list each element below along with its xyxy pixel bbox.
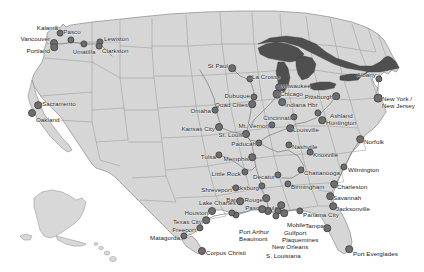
port-marker-jacksonville[interactable] [329, 202, 337, 210]
port-label-st-louis: St. Louis [218, 131, 243, 138]
port-label-knoxville: Knoxville [313, 151, 338, 158]
port-label-corpus-christi: Corpus Christi [206, 249, 246, 256]
marker-overlay: KalamaVancouverPortlandUmatillaPascoLewi… [0, 0, 424, 272]
port-label-wilmington: Wilmington [348, 166, 379, 173]
port-marker-baton-rouge[interactable] [262, 194, 270, 202]
port-marker-kansas-city[interactable] [215, 123, 223, 131]
port-marker-indiana-hbr[interactable] [278, 98, 286, 106]
port-marker-tulsa[interactable] [215, 151, 222, 158]
port-label-port-everglades: Port Everglades [353, 250, 398, 257]
port-marker-little-rock[interactable] [241, 168, 248, 175]
port-marker-freeport[interactable] [196, 224, 203, 231]
port-label-tampa: Tampa [305, 222, 324, 229]
port-marker-texas-city[interactable] [202, 216, 210, 224]
port-marker-quad-cities[interactable] [248, 100, 256, 108]
port-marker-oakland[interactable] [28, 109, 36, 117]
port-marker-albany[interactable] [375, 75, 382, 82]
port-label-memphis: Memphis [224, 155, 249, 162]
port-marker-plaquemines[interactable] [272, 212, 279, 219]
port-marker-lake-charles[interactable] [236, 197, 244, 205]
port-label-new-orleans: New Orleans [272, 243, 308, 250]
port-label-baton-rouge: Baton Rouge [226, 196, 263, 203]
port-label-panama-city: Panama City [303, 211, 339, 218]
port-label-new-york-new-jersey: New York / New Jersey [382, 95, 415, 109]
port-marker-shreveport[interactable] [232, 184, 239, 191]
port-label-chicago: Chicago [280, 90, 303, 97]
port-marker-nashville[interactable] [285, 141, 292, 148]
port-label-st-paul: St Paul [208, 62, 228, 69]
port-marker-memphis[interactable] [248, 153, 256, 161]
port-marker-clarkston[interactable] [96, 43, 103, 50]
port-label-plaquemines: Plaquemines [282, 236, 318, 243]
port-marker-port-everglades[interactable] [345, 245, 353, 253]
port-label-savannah: Savannah [333, 194, 361, 201]
port-marker-birmingham[interactable] [284, 180, 291, 187]
port-label-oakland: Oakland [36, 116, 59, 123]
port-marker-vicksburg[interactable] [258, 182, 265, 189]
port-marker-umatilla[interactable] [80, 40, 87, 47]
port-label-pittsburgh: Pittsburgh [305, 93, 333, 100]
port-label-decatur: Decatur [253, 173, 275, 180]
port-marker-st-louis[interactable] [242, 130, 250, 138]
port-marker-huntington[interactable] [318, 116, 326, 124]
port-label-quad-cities: Quad Cities [215, 101, 248, 108]
port-label-milwaukee: Milwaukee [281, 82, 311, 89]
port-marker-matagorda[interactable] [180, 232, 187, 239]
port-marker-pittsburgh[interactable] [332, 92, 340, 100]
port-label-sacramento: Sacramento [42, 100, 76, 107]
port-marker-knoxville[interactable] [307, 149, 314, 156]
port-label-vancouver: Vancouver [20, 35, 50, 42]
port-marker-norfolk[interactable] [356, 135, 364, 143]
port-label-tulsa: Tulsa [201, 153, 216, 160]
port-label-nashville: Nashville [292, 143, 318, 150]
port-label-indiana-hbr: Indiana Hbr [285, 101, 318, 108]
port-label-shreveport: Shreveport [201, 186, 232, 193]
port-label-ashland: Ashland [330, 112, 353, 119]
port-marker-sacramento[interactable] [34, 101, 42, 109]
port-marker-pasco[interactable] [67, 36, 74, 43]
port-marker-la-crosse[interactable] [246, 75, 253, 82]
port-marker-chicago[interactable] [273, 90, 282, 99]
port-label-dubuque: Dubuque [225, 92, 250, 99]
port-marker-panama-city[interactable] [296, 207, 303, 214]
port-marker-portland[interactable] [50, 43, 58, 51]
port-marker-s-louisiana[interactable] [258, 205, 266, 213]
port-marker-louisville[interactable] [286, 124, 294, 132]
port-label-cincinnati: Cincinnati [263, 114, 291, 121]
port-label-mobile: Mobile [287, 221, 306, 228]
port-label-albany: Albany [357, 71, 376, 78]
port-label-chattanooga: Chattanooga [304, 169, 340, 176]
port-marker-charleston[interactable] [330, 180, 338, 188]
port-label-clarkston: Clarkston [102, 47, 129, 54]
port-label-huntington: Huntington [326, 119, 356, 126]
port-marker-cincinnati[interactable] [290, 113, 297, 120]
port-marker-wilmington[interactable] [340, 163, 347, 170]
port-label-lake-charles: Lake Charles [199, 199, 236, 206]
port-label-port-arthur: Port Arthur [239, 228, 269, 235]
port-label-mt-vernon: Mt. Vernon [239, 122, 269, 129]
port-label-pasco: Pasco [63, 28, 80, 35]
port-marker-houston[interactable] [208, 207, 216, 215]
port-marker-decatur[interactable] [274, 171, 281, 178]
port-label-kalama: Kalama [37, 24, 58, 31]
port-marker-kalama[interactable] [57, 30, 64, 37]
port-marker-mt-vernon[interactable] [268, 121, 275, 128]
port-marker-st-paul[interactable] [228, 64, 236, 72]
port-marker-omaha[interactable] [212, 107, 219, 114]
port-label-omaha: Omaha [190, 107, 211, 114]
port-marker-tampa[interactable] [323, 224, 331, 232]
port-label-birmingham: Birmingham [291, 183, 325, 190]
port-marker-paducah[interactable] [255, 139, 262, 146]
port-label-houston: Houston [185, 209, 208, 216]
port-marker-corpus-christi[interactable] [198, 247, 206, 255]
port-marker-chattanooga[interactable] [297, 166, 304, 173]
port-label-lewiston: Lewiston [104, 35, 129, 42]
port-label-jacksonville: Jacksonville [336, 205, 370, 212]
port-label-little-rock: Little Rock [212, 170, 241, 177]
port-label-matagorda: Matagorda [150, 234, 180, 241]
port-label-charleston: Charleston [337, 183, 367, 190]
port-marker-new-york-new-jersey[interactable] [374, 94, 383, 103]
port-marker-savannah[interactable] [326, 192, 334, 200]
port-label-portland: Portland [27, 47, 50, 54]
port-label-kansas-city: Kansas City [181, 125, 215, 132]
